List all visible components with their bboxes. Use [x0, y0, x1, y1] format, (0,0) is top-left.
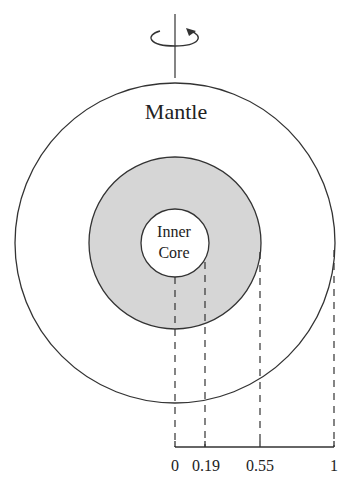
tick-label-0.55: 0.55 [246, 458, 274, 474]
mantle-label: Mantle [134, 101, 218, 123]
inner-core-label: Inner Core [140, 221, 208, 263]
inner-core-label-line1: Inner [140, 221, 208, 242]
radius-axis [175, 441, 334, 447]
tick-label-1: 1 [330, 458, 338, 474]
tick-label-0.19: 0.19 [192, 458, 220, 474]
inner-core-label-line2: Core [140, 242, 208, 263]
tick-label-0: 0 [171, 458, 179, 474]
